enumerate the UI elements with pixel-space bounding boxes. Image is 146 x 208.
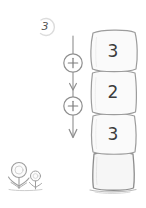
- block-2-value: 2: [93, 84, 133, 101]
- block-base[interactable]: [93, 152, 135, 190]
- operator-plus-1-icon[interactable]: [64, 54, 82, 72]
- sketch-illustration: [0, 0, 146, 208]
- target-number-label: 3: [37, 21, 53, 32]
- flowers-decoration-icon: [9, 163, 43, 191]
- operator-plus-2-icon[interactable]: [64, 97, 82, 115]
- block-3-value: 3: [93, 126, 133, 143]
- block-1-value: 3: [93, 43, 133, 60]
- puzzle-scene: 3 3 2 3 + +: [0, 0, 146, 208]
